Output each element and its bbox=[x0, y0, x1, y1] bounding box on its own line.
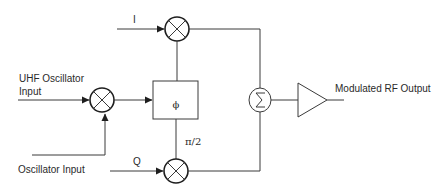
mixer-uhf-icon bbox=[90, 88, 114, 112]
mixer-i-icon bbox=[165, 17, 189, 41]
amplifier-icon bbox=[298, 83, 327, 117]
uhf-input-label-line2: Input bbox=[19, 86, 41, 97]
i-to-summer-line bbox=[189, 29, 260, 88]
summer-icon bbox=[249, 88, 271, 112]
mixer-q-icon bbox=[164, 159, 188, 183]
rf-output-label: Modulated RF Output bbox=[335, 83, 431, 94]
phase-offset-label: π/2 bbox=[185, 136, 201, 147]
iq-modulator-diagram: I ϕ π/2 UHF Oscillator Input Oscillator … bbox=[0, 0, 443, 194]
i-input-label: I bbox=[133, 14, 136, 25]
phase-shifter-symbol: ϕ bbox=[173, 99, 180, 110]
osc-input-line bbox=[32, 114, 105, 155]
uhf-input-label-line1: UHF Oscillator bbox=[19, 73, 85, 84]
osc-input-label: Oscillator Input bbox=[18, 164, 85, 175]
q-input-label: Q bbox=[133, 156, 141, 167]
